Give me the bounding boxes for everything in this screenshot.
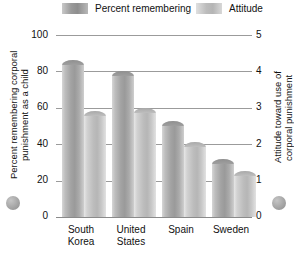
bar-south-korea-attitude [84, 111, 106, 217]
legend-item-percent-remembering: Percent remembering [62, 3, 191, 14]
left-axis-marker-dot [6, 196, 20, 210]
bar-body [212, 164, 234, 217]
bar-united-states-percent-remembering [112, 71, 134, 217]
legend-swatch-percent-remembering [62, 3, 88, 14]
y-axis-right-title: Attitude toward use of corporal punishme… [272, 55, 294, 180]
y-axis-left-tick-0: 0 [22, 211, 48, 221]
bar-body [234, 176, 256, 217]
bar-body [84, 116, 106, 217]
bar-body [62, 65, 84, 217]
y-axis-left-tick-100: 100 [22, 30, 48, 40]
right-axis-marker-dot [272, 196, 286, 210]
gridline-0 [56, 217, 252, 218]
bar-body [184, 147, 206, 217]
bar-body [134, 113, 156, 217]
legend-swatch-attitude [196, 3, 222, 14]
x-axis-label-line2: States [96, 236, 166, 248]
bar-body [112, 76, 134, 217]
legend-item-attitude: Attitude [196, 3, 263, 14]
bar-sweden-attitude [234, 171, 256, 217]
gridline-80 [56, 71, 252, 72]
y-axis-right-tick-0: 0 [256, 211, 278, 221]
chart-legend: Percent remembering Attitude [0, 3, 307, 19]
bar-south-korea-percent-remembering [62, 60, 84, 217]
bar-spain-attitude [184, 142, 206, 217]
gridline-100 [56, 35, 252, 36]
bar-body [162, 126, 184, 217]
x-axis-label-sweden: Sweden [196, 224, 266, 236]
y-axis-left-title: Percent remembering corporal punishment … [8, 40, 30, 190]
x-axis-label-line1: Sweden [196, 224, 266, 236]
chart-container: Percent remembering Attitude 100 80 60 4… [0, 0, 307, 270]
legend-label-attitude: Attitude [229, 3, 263, 14]
bar-spain-percent-remembering [162, 121, 184, 217]
bar-united-states-attitude [134, 108, 156, 217]
plot-area [56, 35, 252, 217]
bar-sweden-percent-remembering [212, 159, 234, 217]
legend-label-percent-remembering: Percent remembering [95, 3, 191, 14]
y-axis-right-tick-5: 5 [256, 30, 278, 40]
